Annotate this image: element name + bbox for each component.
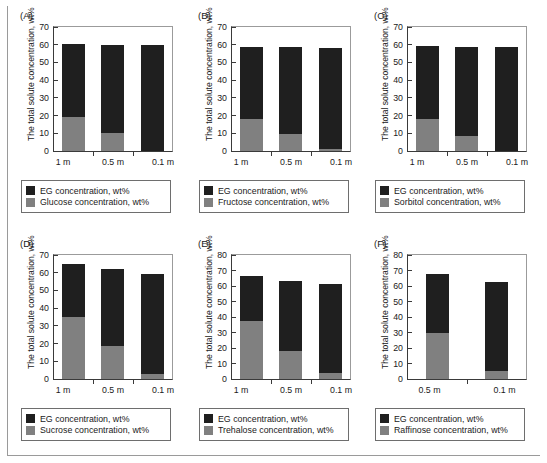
chart-panel-f: (F)The total solute concentration, wt%01… [362, 236, 538, 462]
bar-slot [232, 255, 271, 379]
bar-slot [232, 27, 271, 151]
x-axis-tick-mark [93, 380, 94, 384]
legend-item-solute[interactable]: Raffinose concentration, wt% [380, 425, 520, 435]
y-axis-tick-label: 40 [39, 303, 49, 313]
y-axis-tick: 70 [39, 22, 54, 32]
stacked-bar[interactable] [240, 47, 263, 151]
y-axis-tick-label: 10 [39, 128, 49, 138]
x-axis-tick-label: 1 m [38, 157, 88, 167]
stacked-bar[interactable] [240, 276, 263, 379]
y-axis-tick-label: 0 [398, 374, 403, 384]
y-axis-tick-label: 20 [39, 339, 49, 349]
stacked-bar[interactable] [62, 44, 85, 151]
x-axis-tick-label: 1 m [38, 385, 88, 395]
bar-group [54, 27, 172, 151]
stacked-bar[interactable] [495, 47, 518, 151]
legend-swatch-icon [380, 186, 389, 195]
legend-label: Trehalose concentration, wt% [218, 425, 334, 435]
legend-item-eg[interactable]: EG concentration, wt% [204, 186, 344, 196]
legend-item-eg[interactable]: EG concentration, wt% [204, 414, 344, 424]
y-axis-tick: 30 [393, 93, 408, 103]
y-axis-tick-label: 60 [393, 281, 403, 291]
x-axis-labels: 1 m0.5 m0.1 m [216, 385, 366, 395]
legend-label: Sorbitol concentration, wt% [394, 197, 501, 207]
x-axis-tick-label: 0.5 m [88, 385, 138, 395]
y-axis-tick-label: 0 [44, 374, 49, 384]
legend-item-eg[interactable]: EG concentration, wt% [26, 414, 166, 424]
bar-slot [311, 27, 350, 151]
y-axis-tick: 70 [393, 266, 408, 276]
y-axis-tick: 40 [39, 303, 54, 313]
y-axis-tick-label: 80 [217, 250, 227, 260]
plot-area: The total solute concentration, wt%01020… [8, 22, 184, 172]
stacked-bar[interactable] [455, 47, 478, 151]
bar-segment-solute [62, 317, 85, 379]
y-axis-tick: 60 [393, 281, 408, 291]
x-axis-tick-label: 0.5 m [266, 385, 316, 395]
y-axis-tick-label: 30 [39, 93, 49, 103]
stacked-bar[interactable] [426, 274, 449, 379]
legend-label: EG concentration, wt% [40, 186, 129, 196]
y-axis-tick: 20 [393, 111, 408, 121]
y-axis-tick-label: 30 [217, 328, 227, 338]
y-axis-tick-label: 50 [217, 297, 227, 307]
bar-segment-eg [240, 276, 263, 321]
y-axis-tick: 40 [39, 75, 54, 85]
chart-legend: EG concentration, wt%Sucrose concentrati… [21, 408, 171, 441]
y-axis-tick: 50 [393, 297, 408, 307]
bar-slot [467, 255, 526, 379]
y-axis-tick: 60 [217, 281, 232, 291]
legend-item-solute[interactable]: Glucose concentration, wt% [26, 197, 166, 207]
plot-frame: 01020304050607080 [407, 254, 527, 380]
bar-segment-solute [240, 119, 263, 151]
stacked-bar[interactable] [101, 269, 124, 379]
legend-item-solute[interactable]: Sucrose concentration, wt% [26, 425, 166, 435]
stacked-bar[interactable] [319, 48, 342, 151]
legend-item-solute[interactable]: Trehalose concentration, wt% [204, 425, 344, 435]
legend-item-eg[interactable]: EG concentration, wt% [380, 186, 520, 196]
legend-item-eg[interactable]: EG concentration, wt% [26, 186, 166, 196]
y-axis-tick-label: 60 [393, 40, 403, 50]
y-axis-tick: 20 [217, 111, 232, 121]
y-axis-tick-label: 70 [39, 22, 49, 32]
y-axis-tick: 50 [217, 57, 232, 67]
legend-item-solute[interactable]: Sorbitol concentration, wt% [380, 197, 520, 207]
bar-segment-solute [141, 374, 164, 379]
bar-segment-eg [141, 274, 164, 374]
y-axis-tick: 20 [39, 111, 54, 121]
bar-segment-eg [279, 281, 302, 350]
legend-swatch-icon [26, 186, 35, 195]
stacked-bar[interactable] [319, 284, 342, 379]
bar-segment-eg [485, 282, 508, 371]
legend-swatch-icon [26, 414, 35, 423]
stacked-bar[interactable] [279, 281, 302, 379]
y-axis-tick-label: 60 [39, 40, 49, 50]
x-axis-tick-label: 1 m [216, 157, 266, 167]
stacked-bar[interactable] [141, 274, 164, 379]
x-axis-tick-mark [271, 380, 272, 384]
y-axis-tick: 40 [217, 312, 232, 322]
y-axis-tick: 30 [39, 93, 54, 103]
bar-segment-eg [319, 284, 342, 373]
y-axis-tick: 80 [217, 250, 232, 260]
stacked-bar[interactable] [141, 45, 164, 151]
stacked-bar[interactable] [279, 47, 302, 151]
y-axis-tick: 40 [217, 75, 232, 85]
y-axis-tick: 10 [217, 128, 232, 138]
bar-segment-eg [416, 46, 439, 119]
y-axis-tick-label: 30 [393, 328, 403, 338]
legend-item-eg[interactable]: EG concentration, wt% [380, 414, 520, 424]
x-axis-tick-label: 0.5 m [266, 157, 316, 167]
stacked-bar[interactable] [485, 282, 508, 379]
stacked-bar[interactable] [101, 45, 124, 151]
bar-segment-solute [485, 371, 508, 379]
stacked-bar[interactable] [416, 46, 439, 151]
y-axis-tick-label: 40 [393, 312, 403, 322]
bar-slot [271, 255, 310, 379]
stacked-bar[interactable] [62, 264, 85, 379]
legend-item-solute[interactable]: Fructose concentration, wt% [204, 197, 344, 207]
bar-segment-eg [319, 48, 342, 150]
x-axis-tick-mark [311, 152, 312, 156]
legend-swatch-icon [204, 186, 213, 195]
chart-legend: EG concentration, wt%Trehalose concentra… [199, 408, 349, 441]
